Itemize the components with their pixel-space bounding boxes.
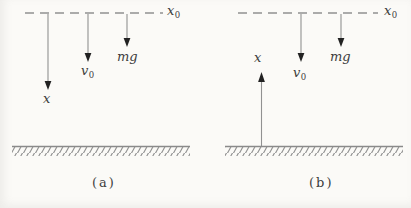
gravity-label-b: mg <box>330 50 351 63</box>
caption-a: (a) <box>92 176 116 189</box>
reference-level-label-a: x0 <box>167 4 180 22</box>
ground-b <box>225 147 403 157</box>
initial-velocity-label-b: v0 <box>293 66 306 84</box>
initial-velocity-arrow-b <box>298 14 305 62</box>
x-axis-label-a: x <box>43 92 50 105</box>
x-axis-up-arrow-b <box>258 72 265 146</box>
reference-level-label-b: x0 <box>384 4 397 22</box>
caption-b: (b) <box>309 176 333 189</box>
initial-velocity-label-a: v0 <box>81 64 94 82</box>
initial-velocity-arrow-a <box>85 14 92 62</box>
ground-a <box>12 147 190 157</box>
x-axis-down-arrow-a <box>45 14 52 90</box>
gravity-label-a: mg <box>117 50 138 63</box>
gravity-force-arrow-b <box>338 14 345 47</box>
gravity-force-arrow-a <box>124 14 131 47</box>
x-axis-label-b: x <box>254 51 261 64</box>
figure-geometry <box>0 0 411 208</box>
free-fall-coordinate-systems-figure: x0 x v0 mg (a) x0 v0 mg x (b) <box>0 0 411 208</box>
